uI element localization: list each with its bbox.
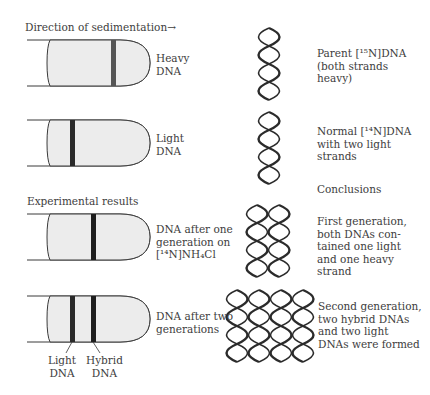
hybrid-band (91, 296, 96, 342)
callout-light-dna: Light DNA (48, 354, 76, 379)
tube-1 (27, 40, 150, 86)
tube-label-second-generation: DNA after two generations (156, 310, 233, 335)
hybrid-band (91, 214, 96, 260)
description-second-generation: Second generation, two hybrid DNAs and t… (318, 300, 422, 350)
tube-4 (27, 296, 150, 353)
description-first-generation: First generation, both DNAs con- tained … (317, 215, 407, 278)
light-band (70, 120, 75, 166)
helix-group-second-generation (227, 290, 314, 362)
callout-hybrid-dna: Hybrid DNA (86, 354, 123, 379)
tube-3 (27, 214, 150, 260)
helix-group-normal (259, 112, 280, 184)
helix-group-parent (259, 28, 280, 100)
light-band (70, 296, 75, 342)
tube-label-light: Light DNA (156, 132, 184, 157)
heavy-band (111, 40, 116, 86)
tube-label-heavy: Heavy DNA (156, 52, 190, 77)
description-normal-dna: Normal [¹⁴N]DNA with two light strands (317, 125, 411, 163)
experimental-results-heading: Experimental results (27, 195, 138, 208)
tube-label-first-generation: DNA after one generation on [¹⁴N]NH₄Cl (156, 223, 233, 261)
description-parent-dna: Parent [¹⁵N]DNA (both strands heavy) (317, 47, 406, 85)
conclusions-heading: Conclusions (317, 183, 381, 196)
tube-2 (27, 120, 150, 166)
helix-group-first-generation (247, 205, 290, 277)
